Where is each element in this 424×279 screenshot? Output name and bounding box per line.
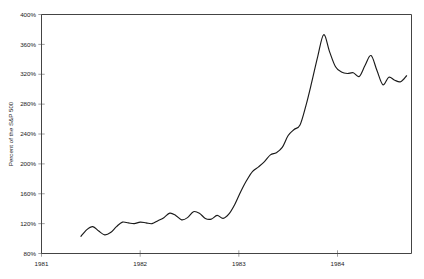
x-tick-label: 1981 <box>35 260 49 267</box>
x-tick-label: 1984 <box>331 260 345 267</box>
y-tick-label: 280% <box>20 100 36 107</box>
axis-frame <box>42 15 412 254</box>
y-tick-label: 320% <box>20 70 36 77</box>
y-tick-label: 240% <box>20 130 36 137</box>
x-axis-ticks: 1981198219831984 <box>35 250 345 267</box>
y-axis-title: Percent of the S&P 500 <box>7 101 14 166</box>
y-tick-label: 80% <box>24 250 37 257</box>
y-tick-label: 160% <box>20 190 36 197</box>
y-axis-title-text: Percent of the S&P 500 <box>7 101 14 166</box>
y-tick-label: 200% <box>20 160 36 167</box>
y-tick-label: 120% <box>20 220 36 227</box>
line-chart: 80%120%160%200%240%280%320%360%400% 1981… <box>0 0 424 279</box>
x-tick-label: 1982 <box>133 260 147 267</box>
y-tick-label: 360% <box>20 41 36 48</box>
chart-container: 80%120%160%200%240%280%320%360%400% 1981… <box>0 0 424 279</box>
series-group <box>81 35 407 237</box>
x-tick-label: 1983 <box>232 260 246 267</box>
y-tick-label: 400% <box>20 11 36 18</box>
data-series-line <box>81 35 407 237</box>
